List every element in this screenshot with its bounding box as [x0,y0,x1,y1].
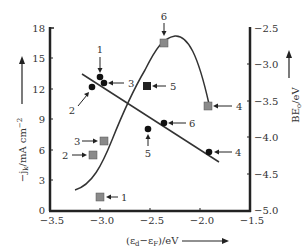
y-left-tick-3: 3 [39,175,45,186]
label-square-3: 3 [74,136,80,147]
x-tick-m3.5: −3.5 [40,215,64,226]
label-circle-6: 6 [189,118,195,129]
x-tick-m2.0: −2.0 [190,215,214,226]
circle-point-6 [161,120,168,127]
svg-text:(εd−εF)/eV: (εd−εF)/eV [126,235,179,248]
y-left-tick-18: 18 [32,23,45,34]
x-tick-m1.5: −1.5 [240,215,264,226]
square-point-6 [160,39,168,47]
y-right-tick-m3.0: −3.0 [254,59,278,70]
x-axis-label: (εd−εF)/eV [126,235,229,248]
square-point-4 [204,102,212,110]
y-right-tick-m4.5: −4.5 [254,169,278,180]
y-right-axis-label: BEo/eV [286,50,303,123]
plot-frame [49,27,251,212]
y-right-tick-m3.5: −3.5 [254,96,278,107]
y-left-tick-labels: 0 3 6 9 12 15 18 [32,23,45,216]
x-tick-m3.0: −3.0 [90,215,114,226]
svg-text:−jk/mA cm−2: −jk/mA cm−2 [16,118,30,182]
x-tick-m2.5: −2.5 [140,215,164,226]
y-left-tick-6: 6 [39,145,45,156]
square-point-3 [100,137,108,145]
label-square-6: 6 [161,11,167,22]
label-circle-4: 4 [235,147,241,158]
square-point-2 [89,151,97,159]
label-square-4: 4 [236,101,242,112]
circle-point-5 [145,126,152,133]
volcano-chart: 0 3 6 9 12 15 18 −3.5 −3.0 −2.5 −2.0 −1.… [0,0,308,252]
arrow-up-icon [286,50,292,58]
arrow-up-icon [19,56,25,64]
label-square-1: 1 [121,192,127,203]
square-point-5 [143,82,151,90]
label-circle-1: 1 [97,44,103,55]
label-square-2: 2 [62,150,68,161]
svg-text:BEo/eV: BEo/eV [290,87,303,123]
y-right-tick-m5.0: −5.0 [254,205,278,216]
y-left-axis-label: −jk/mA cm−2 [16,56,30,182]
arrow-right-icon [222,238,229,244]
circle-point-1 [97,74,104,81]
y-left-tick-15: 15 [32,53,45,64]
label-circle-2: 2 [69,105,75,116]
y-right-tick-m2.5: −2.5 [254,23,278,34]
x-tick-labels: −3.5 −3.0 −2.5 −2.0 −1.5 [40,215,264,226]
label-circle-5: 5 [145,148,151,159]
y-left-tick-12: 12 [32,84,45,95]
circle-point-3 [101,80,108,87]
circle-point-2 [89,84,96,91]
y-right-tick-labels: −2.5 −3.0 −3.5 −4.0 −4.5 −5.0 [254,23,278,216]
label-circle-3: 3 [128,78,134,89]
square-point-1 [96,193,104,201]
y-right-tick-m4.0: −4.0 [254,132,278,143]
circle-point-4 [206,149,213,156]
label-square-5: 5 [170,81,176,92]
y-left-tick-9: 9 [39,114,45,125]
